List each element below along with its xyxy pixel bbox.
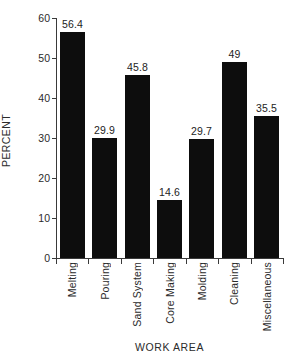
category-label: Pouring <box>99 262 111 300</box>
y-tick-label: 10 <box>18 212 50 224</box>
y-tick-label: 50 <box>18 52 50 64</box>
y-tick-label: 40 <box>18 92 50 104</box>
bars-layer: 56.429.945.814.629.74935.5 <box>56 18 283 258</box>
bar-value-label: 56.4 <box>62 18 83 30</box>
x-axis-category-labels: MeltingPouringSand SystemCore MakingMold… <box>56 262 283 340</box>
bar <box>157 200 182 258</box>
category-label: Core Making <box>164 262 176 324</box>
bar-value-label: 29.9 <box>94 124 115 136</box>
x-tick-mark <box>283 259 284 264</box>
bar-group: 56.4 <box>60 18 85 258</box>
category-label: Molding <box>196 262 208 300</box>
bar-group: 14.6 <box>157 18 182 258</box>
bar-value-label: 45.8 <box>127 61 148 73</box>
category-label: Cleaning <box>228 262 240 305</box>
bar-group: 35.5 <box>254 18 279 258</box>
category-label: Miscellaneous <box>261 262 273 331</box>
bar-group: 29.7 <box>189 18 214 258</box>
y-axis-tick-labels: 0102030405060 <box>18 0 50 363</box>
bar-chart-figure: PERCENT 0102030405060 56.429.945.814.629… <box>0 0 293 363</box>
plot-area: 56.429.945.814.629.74935.5 <box>56 18 283 258</box>
bar-group: 49 <box>222 18 247 258</box>
bar-value-label: 35.5 <box>256 102 277 114</box>
y-tick-label: 0 <box>18 252 50 264</box>
bar-group: 45.8 <box>125 18 150 258</box>
bar-value-label: 14.6 <box>159 186 180 198</box>
bar <box>125 75 150 258</box>
bar <box>222 62 247 258</box>
x-axis-title: WORK AREA <box>56 341 283 353</box>
category-label: Sand System <box>131 262 143 327</box>
bar-value-label: 29.7 <box>191 125 212 137</box>
bar <box>92 138 117 258</box>
category-label: Melting <box>66 262 78 297</box>
y-tick-label: 20 <box>18 172 50 184</box>
bar-group: 29.9 <box>92 18 117 258</box>
y-tick-label: 30 <box>18 132 50 144</box>
y-tick-label: 60 <box>18 12 50 24</box>
y-axis-title: PERCENT <box>0 96 16 186</box>
x-axis-line <box>56 258 284 259</box>
bar <box>60 32 85 258</box>
bar <box>189 139 214 258</box>
bar <box>254 116 279 258</box>
bar-value-label: 49 <box>229 48 241 60</box>
